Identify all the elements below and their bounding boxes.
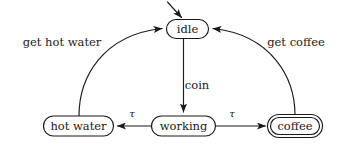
state-diagram: coin τ τ get hot water get coffee idle xyxy=(0,0,338,144)
state-node-idle[interactable]: idle xyxy=(167,20,209,39)
edge-working-coffee: τ xyxy=(216,108,266,127)
edge-label-get-coffee: get coffee xyxy=(267,35,325,49)
edge-label-get-hot-water: get hot water xyxy=(23,35,102,49)
state-node-coffee-label: coffee xyxy=(277,119,312,133)
edge-initial-arrow xyxy=(168,2,182,18)
state-node-hot-water-label: hot water xyxy=(50,119,107,133)
state-node-idle-label: idle xyxy=(177,22,199,36)
state-node-coffee[interactable]: coffee xyxy=(268,115,323,138)
state-diagram-canvas: coin τ τ get hot water get coffee idle xyxy=(0,0,338,144)
edge-working-hot-water: τ xyxy=(118,108,152,127)
edge-label-tau-right: τ xyxy=(229,108,235,119)
edge-label-coin: coin xyxy=(185,78,210,92)
edge-idle-working: coin xyxy=(184,39,210,113)
state-node-working-label: working xyxy=(160,119,208,133)
edge-coffee-idle: get coffee xyxy=(213,29,325,116)
edge-initial-arrow-path xyxy=(168,2,182,18)
state-node-hot-water[interactable]: hot water xyxy=(44,116,114,136)
edge-hot-water-idle: get hot water xyxy=(23,29,162,117)
edge-label-tau-left: τ xyxy=(129,108,135,119)
state-node-working[interactable]: working xyxy=(152,116,216,136)
